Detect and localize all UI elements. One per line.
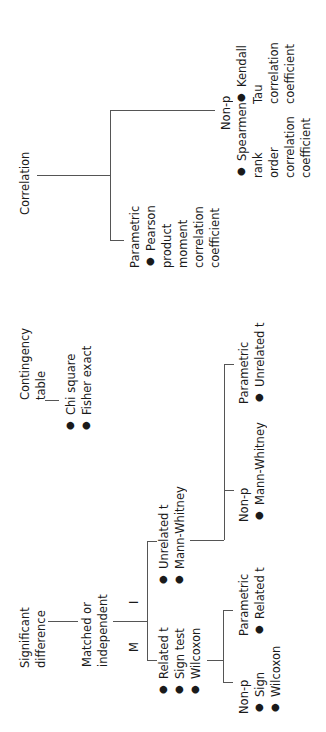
independent-marker: I [126, 592, 142, 604]
connector [207, 660, 223, 661]
connector [113, 621, 147, 622]
contingency-label: Contingency table [17, 318, 49, 400]
kendall-item: Kendall Tau correlation coefficient [234, 18, 298, 104]
independent-nonparametric: Non-p Mann-Whitney [236, 418, 268, 522]
independent-parametric: Parametric Unrelated t [236, 328, 268, 404]
matched-or-independent-label: Matched or independent [79, 587, 111, 667]
matched-parametric: Parametric Related t [236, 566, 268, 636]
connector [110, 240, 124, 241]
connector [147, 541, 148, 660]
independent-items: Unrelated t Mann-Whitney [156, 498, 188, 586]
significant-difference-label: Significant difference [17, 598, 49, 668]
bullet-item: Pearson [143, 150, 159, 268]
connector [37, 175, 110, 176]
correlation-label: Correlation [17, 140, 33, 215]
connector [224, 364, 225, 540]
connector [223, 682, 233, 683]
matched-marker: M [126, 638, 142, 652]
correlation-parametric: Parametric Pearson product moment correl… [127, 150, 223, 268]
connector [223, 610, 224, 682]
connector [45, 400, 59, 401]
matched-items: Related t Sign test Wilcoxon [156, 632, 204, 696]
connector [224, 364, 234, 365]
connector [224, 490, 234, 491]
contingency-items: Chi square Fisher exact [63, 360, 95, 432]
connector [110, 110, 111, 240]
matched-nonparametric: Non-p Sign Wilcoxon [236, 650, 284, 714]
connector [48, 621, 78, 622]
connector [110, 110, 215, 111]
connector [223, 610, 233, 611]
correlation-nonp-label: Non-p [218, 90, 234, 130]
connector [190, 540, 224, 541]
